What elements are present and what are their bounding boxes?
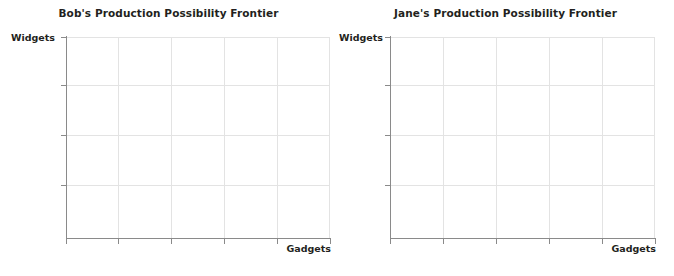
gridline-horizontal: [390, 135, 655, 136]
y-axis-line-bob: [66, 36, 67, 239]
ppf-worksheet: Bob's Production Possibility Frontier Wi…: [0, 0, 674, 276]
gridline-vertical: [654, 37, 655, 238]
gridline-horizontal: [390, 85, 655, 86]
chart-panel-bob: Bob's Production Possibility Frontier Wi…: [0, 0, 337, 276]
gridline-vertical: [496, 37, 497, 238]
gridline-vertical: [277, 37, 278, 238]
y-axis-label-bob: Widgets: [0, 32, 60, 43]
x-axis-label-bob: Gadgets: [0, 243, 331, 254]
y-axis-tick: [61, 185, 67, 186]
x-axis-line-jane: [390, 238, 656, 239]
gridline-vertical: [118, 37, 119, 238]
y-axis-tick: [385, 185, 391, 186]
gridline-horizontal: [390, 37, 655, 38]
y-axis-tick: [385, 37, 391, 38]
gridline-vertical: [443, 37, 444, 238]
gridline-horizontal: [66, 185, 330, 186]
gridline-vertical: [171, 37, 172, 238]
y-axis-label-jane: Widgets: [328, 32, 388, 43]
gridline-vertical: [549, 37, 550, 238]
y-axis-tick: [61, 85, 67, 86]
gridline-horizontal: [390, 185, 655, 186]
x-axis-label-jane: Gadgets: [337, 243, 656, 254]
chart-title-jane: Jane's Production Possibility Frontier: [337, 7, 674, 19]
gridline-horizontal: [66, 85, 330, 86]
y-axis-tick: [385, 135, 391, 136]
y-axis-tick: [385, 85, 391, 86]
chart-title-bob: Bob's Production Possibility Frontier: [0, 7, 337, 19]
chart-panel-jane: Jane's Production Possibility Frontier W…: [337, 0, 674, 276]
plot-area-bob: [66, 37, 330, 238]
gridline-vertical: [224, 37, 225, 238]
y-axis-tick: [61, 135, 67, 136]
gridline-vertical: [329, 37, 330, 238]
gridline-horizontal: [66, 37, 330, 38]
plot-area-jane: [390, 37, 655, 238]
y-axis-tick: [61, 37, 67, 38]
y-axis-line-jane: [390, 36, 391, 239]
gridline-horizontal: [66, 135, 330, 136]
gridline-vertical: [602, 37, 603, 238]
x-axis-line-bob: [66, 238, 331, 239]
